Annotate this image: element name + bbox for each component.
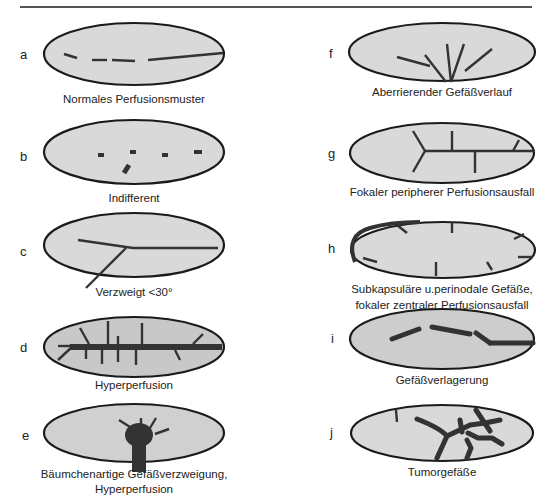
panel-c-drawing bbox=[44, 213, 224, 288]
panel-b-caption: Indifferent bbox=[14, 191, 254, 206]
panel-i-caption: Gefäßverlagerung bbox=[322, 373, 550, 388]
panel-f-caption: Aberrierender Gefäßverlauf bbox=[322, 85, 550, 100]
panel-f-drawing bbox=[349, 23, 535, 82]
panel-b-drawing bbox=[44, 120, 224, 184]
panel-g-letter: g bbox=[328, 146, 335, 161]
panel-d-caption: Hyperperfusion bbox=[14, 378, 254, 393]
panel-a-drawing bbox=[44, 23, 224, 85]
panel-d-letter: d bbox=[20, 340, 27, 355]
diagram-canvas bbox=[0, 0, 550, 504]
panel-e-drawing bbox=[44, 404, 224, 472]
panel-g-drawing bbox=[350, 123, 535, 183]
panel-h-caption: Subkapsuläre u.perinodale Gefäße, bbox=[322, 282, 550, 297]
panel-i-drawing bbox=[350, 309, 534, 369]
panel-j-letter: j bbox=[330, 425, 333, 440]
panel-a-caption: Normales Perfusionsmuster bbox=[14, 92, 254, 107]
panel-g-caption: Fokaler peripherer Perfusionsausfall bbox=[322, 185, 550, 200]
panel-a-letter: a bbox=[20, 47, 27, 62]
panel-f-letter: f bbox=[329, 46, 333, 61]
panel-i-letter: i bbox=[331, 331, 334, 346]
panel-d-drawing bbox=[44, 317, 224, 377]
panel-e-caption: Bäumchenartige Gefäßverzweigung, bbox=[14, 467, 254, 482]
panel-c-caption: Verzweigt <30° bbox=[14, 285, 254, 300]
panel-h-drawing bbox=[351, 222, 535, 278]
panel-j-drawing bbox=[351, 405, 533, 461]
panel-h-caption-line2: fokaler zentraler Perfusionsausfall bbox=[322, 298, 550, 313]
panel-h-letter: h bbox=[328, 241, 335, 256]
panel-j-caption: Tumorgefäße bbox=[322, 465, 550, 480]
panel-c-letter: c bbox=[20, 244, 27, 259]
panel-e-caption-line2: Hyperperfusion bbox=[14, 482, 254, 497]
panel-e-letter: e bbox=[22, 428, 29, 443]
panel-b-letter: b bbox=[20, 149, 27, 164]
